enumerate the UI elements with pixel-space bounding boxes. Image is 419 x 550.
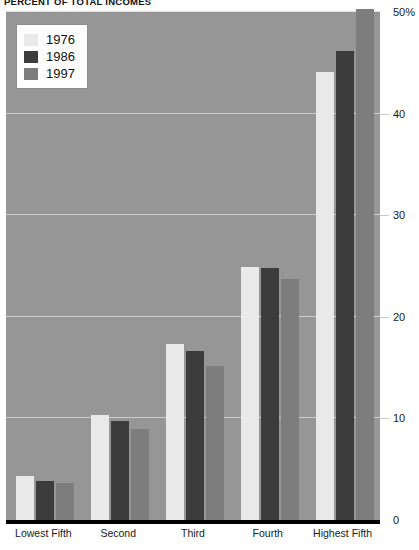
x-axis-baseline bbox=[6, 520, 380, 524]
bar-1976-lowest-fifth[interactable] bbox=[16, 476, 34, 520]
bar-1986-lowest-fifth[interactable] bbox=[36, 481, 54, 520]
bar-1997-lowest-fifth[interactable] bbox=[56, 483, 74, 520]
y-tick-10 bbox=[380, 418, 389, 419]
bar-1997-fourth[interactable] bbox=[281, 279, 299, 520]
y-tick-30 bbox=[380, 215, 389, 216]
y-axis: 01020304050% bbox=[380, 0, 419, 550]
legend-item-1986[interactable]: 1986 bbox=[24, 48, 75, 65]
x-axis-label-second: Second bbox=[100, 527, 136, 539]
bar-1997-second[interactable] bbox=[131, 429, 149, 520]
bar-group-third bbox=[156, 12, 231, 520]
y-axis-label-30: 30 bbox=[393, 209, 405, 221]
bar-1976-second[interactable] bbox=[91, 415, 109, 520]
x-axis-label-highest-fifth: Highest Fifth bbox=[313, 527, 372, 539]
y-axis-label-20: 20 bbox=[393, 311, 405, 323]
bar-group-second bbox=[81, 12, 156, 520]
legend-label-1997: 1997 bbox=[46, 67, 75, 80]
legend-item-1997[interactable]: 1997 bbox=[24, 65, 75, 82]
chart-legend: 197619861997 bbox=[16, 24, 88, 89]
legend-label-1976: 1976 bbox=[46, 33, 75, 46]
y-axis-label-50: 50% bbox=[393, 6, 415, 18]
x-axis: Lowest FifthSecondThirdFourthHighest Fif… bbox=[0, 527, 419, 549]
y-tick-40 bbox=[380, 114, 389, 115]
chart-title: PERCENT OF TOTAL INCOMES bbox=[4, 0, 151, 7]
y-axis-label-10: 10 bbox=[393, 412, 405, 424]
legend-swatch-icon-1976 bbox=[24, 34, 38, 46]
bar-1986-highest-fifth[interactable] bbox=[336, 51, 354, 520]
bar-1976-fourth[interactable] bbox=[241, 267, 259, 520]
y-axis-label-0: 0 bbox=[393, 514, 399, 526]
y-tick-20 bbox=[380, 317, 389, 318]
legend-label-1986: 1986 bbox=[46, 50, 75, 63]
bar-group-highest-fifth bbox=[305, 12, 380, 520]
bar-1986-third[interactable] bbox=[186, 351, 204, 520]
bar-1976-highest-fifth[interactable] bbox=[316, 72, 334, 520]
bar-1997-third[interactable] bbox=[206, 366, 224, 520]
legend-swatch-icon-1986 bbox=[24, 51, 38, 63]
bar-1997-highest-fifth[interactable] bbox=[356, 9, 374, 520]
bar-1986-second[interactable] bbox=[111, 421, 129, 520]
bar-group-fourth bbox=[230, 12, 305, 520]
bar-1986-fourth[interactable] bbox=[261, 268, 279, 520]
y-axis-label-40: 40 bbox=[393, 108, 405, 120]
legend-item-1976[interactable]: 1976 bbox=[24, 31, 75, 48]
x-axis-label-fourth: Fourth bbox=[253, 527, 283, 539]
legend-swatch-icon-1997 bbox=[24, 68, 38, 80]
x-axis-label-third: Third bbox=[181, 527, 205, 539]
x-axis-label-lowest-fifth: Lowest Fifth bbox=[15, 527, 72, 539]
bar-1976-third[interactable] bbox=[166, 344, 184, 520]
